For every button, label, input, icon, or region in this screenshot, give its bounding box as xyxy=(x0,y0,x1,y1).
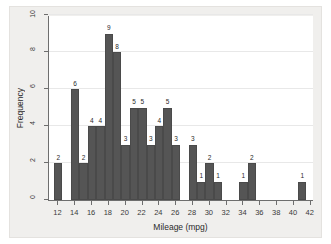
bar-value-label: 8 xyxy=(108,44,126,51)
histogram-bar xyxy=(79,163,87,200)
bar-value-label: 1 xyxy=(293,173,311,180)
y-tick-label: 6 xyxy=(29,84,43,88)
x-tick-mark xyxy=(242,201,243,205)
x-tick-mark xyxy=(74,201,75,205)
histogram-bar xyxy=(298,182,306,201)
bar-value-label: 3 xyxy=(142,136,160,143)
histogram-bar xyxy=(147,145,155,201)
plot-inner: 0246810 12141618202224262830323436384042… xyxy=(49,16,313,200)
bar-value-label: 5 xyxy=(133,99,151,106)
y-axis-title: Frequency xyxy=(14,16,26,201)
bar-value-label: 2 xyxy=(201,155,219,162)
x-tick-mark xyxy=(226,201,227,205)
x-tick-label: 42 xyxy=(300,209,320,217)
bar-value-label: 2 xyxy=(243,155,261,162)
histogram-bar xyxy=(121,145,129,201)
gridline xyxy=(49,88,313,89)
histogram-bar xyxy=(248,163,256,200)
x-tick-mark xyxy=(91,201,92,205)
y-tick-label: 2 xyxy=(29,158,43,162)
plot-region: 0246810 12141618202224262830323436384042… xyxy=(48,16,313,201)
bar-value-label: 4 xyxy=(91,118,109,125)
histogram-bar xyxy=(138,108,146,201)
bar-value-label: 1 xyxy=(209,173,227,180)
y-axis-title-label: Frequency xyxy=(15,88,25,128)
x-tick-mark xyxy=(293,201,294,205)
x-tick-mark xyxy=(158,201,159,205)
bar-value-label: 3 xyxy=(167,136,185,143)
histogram-figure: Frequency 0246810 1214161820222426283032… xyxy=(0,0,331,244)
histogram-bar xyxy=(113,52,121,200)
histogram-bar xyxy=(239,182,247,201)
x-tick-mark xyxy=(125,201,126,205)
x-tick-mark xyxy=(276,201,277,205)
bar-value-label: 6 xyxy=(66,81,84,88)
bar-value-label: 1 xyxy=(234,173,252,180)
x-tick-mark xyxy=(310,201,311,205)
y-tick-label: 10 xyxy=(29,10,43,18)
bar-value-label: 5 xyxy=(159,99,177,106)
x-tick-mark xyxy=(142,201,143,205)
histogram-bar xyxy=(205,163,213,200)
histogram-bar xyxy=(172,145,180,201)
y-tick-label: 8 xyxy=(29,47,43,51)
bar-value-label: 3 xyxy=(184,136,202,143)
x-tick-mark xyxy=(192,201,193,205)
y-tick-mark xyxy=(44,162,48,163)
y-tick-mark xyxy=(44,199,48,200)
x-tick-mark xyxy=(175,201,176,205)
histogram-bar xyxy=(71,89,79,200)
bar-value-label: 1 xyxy=(192,173,210,180)
x-tick-mark xyxy=(209,201,210,205)
gridline xyxy=(49,51,313,52)
y-tick-label: 4 xyxy=(29,121,43,125)
bar-value-label: 3 xyxy=(117,136,135,143)
bar-value-label: 2 xyxy=(49,155,67,162)
histogram-bar xyxy=(88,126,96,200)
x-tick-mark xyxy=(57,201,58,205)
x-axis-title: Mileage (mpg) xyxy=(48,222,313,232)
histogram-bar xyxy=(96,126,104,200)
y-tick-mark xyxy=(44,88,48,89)
histogram-bar xyxy=(197,182,205,201)
x-tick-mark xyxy=(259,201,260,205)
y-tick-mark xyxy=(44,125,48,126)
y-tick-label: 0 xyxy=(29,195,43,199)
bar-value-label: 4 xyxy=(150,118,168,125)
y-tick-mark xyxy=(44,14,48,15)
histogram-bar xyxy=(130,108,138,201)
x-tick-mark xyxy=(108,201,109,205)
bar-value-label: 9 xyxy=(100,25,118,32)
bar-value-label: 2 xyxy=(74,155,92,162)
y-tick-mark xyxy=(44,51,48,52)
histogram-bar xyxy=(214,182,222,201)
gridline xyxy=(49,14,313,15)
histogram-bar xyxy=(54,163,62,200)
